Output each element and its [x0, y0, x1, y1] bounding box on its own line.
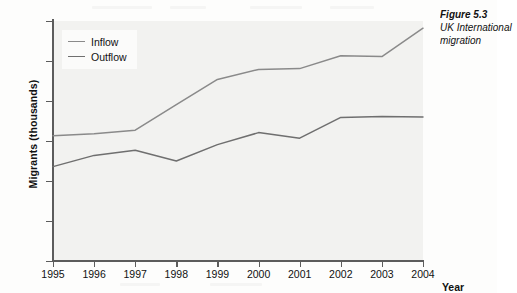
- legend-label-inflow: Inflow: [91, 36, 118, 48]
- legend-item-inflow: Inflow: [68, 34, 127, 49]
- legend-label-outflow: Outflow: [91, 51, 127, 63]
- figure-caption: Figure 5.3 UK International migration: [440, 8, 517, 48]
- plot-wrapper: Migrants (thousands) 0 100 200 300 400 5…: [0, 0, 440, 293]
- legend-item-outflow: Outflow: [68, 49, 127, 64]
- figure-caption-line1: UK International: [440, 21, 517, 34]
- figure-caption-title: Figure 5.3: [440, 8, 517, 21]
- legend-swatch-inflow: [68, 41, 85, 43]
- figure-caption-line2: migration: [440, 34, 517, 47]
- line-outflow: [53, 117, 423, 167]
- chart-legend: Inflow Outflow: [62, 30, 137, 69]
- legend-swatch-outflow: [68, 56, 85, 58]
